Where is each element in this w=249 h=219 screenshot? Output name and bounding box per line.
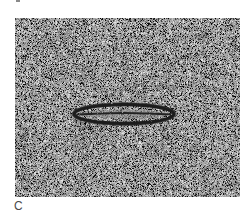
micrograph-image <box>15 18 240 197</box>
micrograph-panel <box>15 18 240 197</box>
cropped-label-fragment <box>16 0 20 2</box>
spindle-particle <box>72 103 176 126</box>
panel-label: C <box>14 199 23 213</box>
